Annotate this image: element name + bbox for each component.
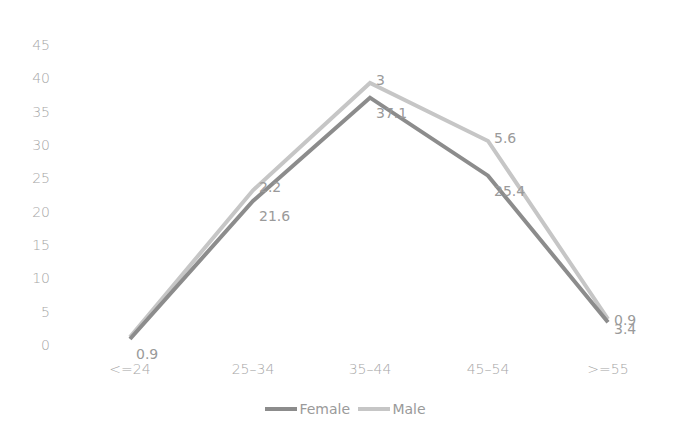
data-labels: 0.921.637.125.43.42.235.60.9	[136, 72, 636, 362]
data-label-female: 37.1	[376, 105, 407, 121]
line-female[interactable]	[130, 98, 608, 339]
data-label-male: 2.2	[259, 179, 281, 195]
legend-item-female[interactable]: Female	[265, 401, 350, 417]
x-tick-label: >=55	[587, 361, 628, 377]
male-line-swatch-icon	[358, 407, 390, 411]
data-label-male: 0.9	[614, 312, 636, 328]
y-axis: 051015202530354045	[32, 37, 50, 353]
y-tick-label: 25	[32, 170, 50, 186]
x-tick-label: 45–54	[467, 361, 510, 377]
legend: Female Male	[0, 398, 691, 417]
line-chart: 051015202530354045 <=2425–3435–4445–54>=…	[0, 0, 691, 441]
female-line-swatch-icon	[265, 407, 297, 411]
x-tick-label: 35–44	[349, 361, 392, 377]
legend-label-female: Female	[299, 401, 350, 417]
y-tick-label: 30	[32, 137, 50, 153]
y-tick-label: 5	[41, 304, 50, 320]
line-male[interactable]	[130, 83, 608, 337]
y-tick-label: 45	[32, 37, 50, 53]
data-label-male: 5.6	[494, 130, 516, 146]
y-tick-label: 20	[32, 204, 50, 220]
legend-item-male[interactable]: Male	[358, 401, 425, 417]
series-lines	[130, 83, 608, 339]
data-label-male: 3	[376, 72, 385, 88]
y-tick-label: 40	[32, 70, 50, 86]
y-tick-label: 15	[32, 237, 50, 253]
x-axis: <=2425–3435–4445–54>=55	[109, 361, 628, 377]
x-tick-label: <=24	[109, 361, 150, 377]
data-label-female: 21.6	[259, 208, 290, 224]
legend-label-male: Male	[392, 401, 425, 417]
x-tick-label: 25–34	[232, 361, 275, 377]
y-tick-label: 0	[41, 337, 50, 353]
y-tick-label: 35	[32, 104, 50, 120]
data-label-female: 0.9	[136, 346, 158, 362]
y-tick-label: 10	[32, 270, 50, 286]
data-label-female: 25.4	[494, 183, 525, 199]
